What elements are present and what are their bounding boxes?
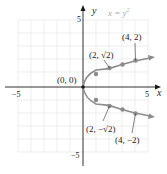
- y-tick-5: 5: [77, 15, 81, 24]
- x-axis-label: x: [156, 87, 162, 98]
- upper-branch: [83, 58, 150, 87]
- parabola-chart: y x x = y2 5 −5 −5 5 (0, 0) (2, √2) (4, …: [0, 0, 167, 174]
- lower-branch: [83, 87, 150, 116]
- y-axis-arrow-icon: [81, 5, 86, 11]
- point-label-4-neg2: (4, −2): [115, 135, 140, 145]
- upper-arrow-icon: [148, 55, 155, 61]
- equation-label: x = y2: [107, 7, 130, 18]
- y-tick-neg5: −5: [71, 151, 80, 160]
- point-label-2-negsqrt2: (2, −√2): [86, 124, 116, 134]
- point-label-2-sqrt2: (2, √2): [89, 50, 113, 60]
- x-tick-5: 5: [145, 90, 149, 99]
- lower-arrow-icon: [148, 114, 155, 120]
- y-axis-label: y: [91, 5, 97, 16]
- point-label-4-2: (4, 2): [122, 32, 142, 42]
- x-tick-neg5: −5: [12, 90, 21, 99]
- origin-label: (0, 0): [57, 75, 77, 85]
